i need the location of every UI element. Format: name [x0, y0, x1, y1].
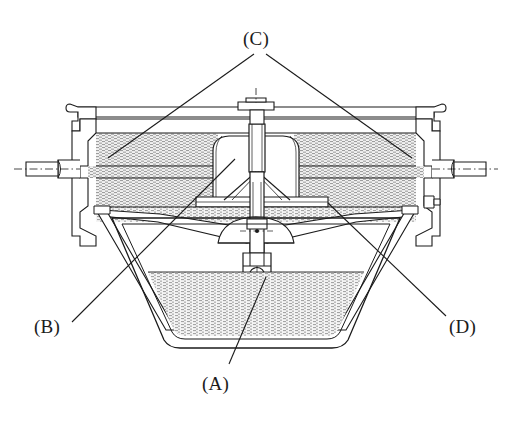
vessel-assembly: [14, 54, 498, 364]
callout-label-b: (B): [34, 316, 60, 338]
right-strut-pad: [402, 206, 418, 214]
left-casing-profile: [72, 119, 96, 246]
right-side-boss-cap: [434, 199, 440, 205]
callout-label-c: (C): [243, 28, 269, 50]
shaft-top-collar: [250, 110, 264, 124]
figure-container: (C) (B) (D) (A): [0, 0, 512, 423]
shaft-upper-sleeve: [249, 124, 265, 172]
hopper-material: [140, 268, 376, 344]
left-side-wall: [14, 119, 96, 246]
callout-label-a: (A): [202, 373, 229, 395]
callout-label-d: (D): [449, 316, 476, 338]
right-casing-profile: [416, 119, 440, 246]
left-frame-strut: [96, 210, 176, 330]
impeller-assembly: [102, 210, 412, 253]
upper-chamber-right-material: [294, 133, 424, 207]
cross-section-drawing: [0, 0, 512, 423]
shaft-gland-box: [238, 102, 274, 110]
left-strut-pad: [94, 206, 110, 214]
right-side-boss: [424, 196, 434, 208]
right-frame-strut: [336, 210, 416, 330]
right-side-wall: [416, 119, 498, 246]
